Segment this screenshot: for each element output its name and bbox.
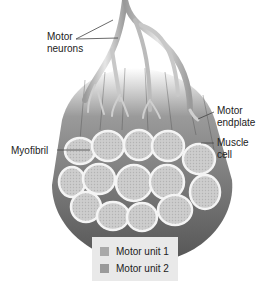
label-line: neurons [47, 43, 83, 55]
label-line: Motor [217, 105, 255, 117]
legend-item-motor-unit-2: Motor unit 2 [100, 263, 169, 274]
label-line: Muscle [217, 137, 249, 149]
label-motor-endplate: Motor endplate [217, 105, 255, 129]
legend: Motor unit 1 Motor unit 2 [92, 237, 178, 281]
legend-label: Motor unit 2 [116, 263, 169, 274]
legend-label: Motor unit 1 [116, 246, 169, 257]
label-myofibril: Myofibril [11, 145, 48, 157]
label-line: endplate [217, 117, 255, 129]
label-line: cell [217, 149, 249, 161]
legend-item-motor-unit-1: Motor unit 1 [100, 246, 169, 257]
label-muscle-cell: Muscle cell [217, 137, 249, 161]
legend-swatch [100, 264, 109, 273]
legend-swatch [100, 247, 109, 256]
label-motor-neurons: Motor neurons [47, 31, 83, 55]
label-line: Motor [47, 31, 83, 43]
